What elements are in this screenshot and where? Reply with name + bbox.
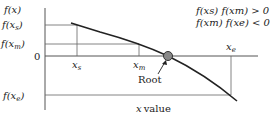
x-axis-title: xvalue [136, 103, 171, 114]
condition-2: f(xm) f(xe) < 0 [195, 17, 271, 28]
y-axis-label: f(x) [3, 4, 21, 15]
xs-label: xs [72, 59, 82, 72]
function-curve [71, 23, 237, 101]
zero-label: 0 [34, 51, 40, 62]
xe-label: xe [226, 41, 236, 54]
root-marker [164, 52, 173, 61]
f-xs-label: f(xs) [1, 19, 23, 32]
f-xm-label: f(xm) [0, 38, 25, 51]
condition-1: f(xs) f(xm) > 0 [195, 5, 270, 16]
arrowhead-icon [162, 60, 167, 65]
xm-label: xm [133, 59, 146, 72]
bisection-diagram: f(x) f(xs) f(xm) 0 f(xe) xs xm xe Root x… [0, 0, 273, 121]
root-label: Root [138, 74, 162, 85]
f-xe-label: f(xe) [2, 90, 24, 103]
